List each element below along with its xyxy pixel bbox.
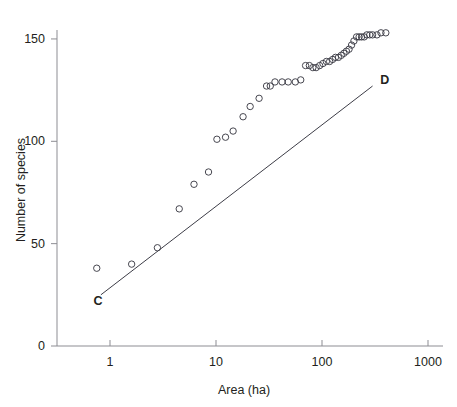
data-point bbox=[374, 32, 380, 38]
x-tick-label: 10 bbox=[209, 356, 223, 369]
data-point bbox=[191, 181, 197, 187]
reference-line-series bbox=[101, 86, 373, 295]
y-tick-label: 50 bbox=[31, 237, 45, 250]
data-point bbox=[247, 103, 253, 109]
data-point bbox=[279, 79, 285, 85]
x-axis-ticks bbox=[110, 340, 428, 346]
x-tick-label: 1 bbox=[107, 356, 114, 369]
data-point bbox=[154, 245, 160, 251]
data-point bbox=[214, 136, 220, 142]
data-point bbox=[298, 77, 304, 83]
plot-canvas bbox=[0, 0, 457, 407]
data-point bbox=[272, 79, 278, 85]
x-tick-label: 100 bbox=[312, 356, 333, 369]
y-axis-title: Number of species bbox=[14, 138, 28, 242]
x-tick-label: 1000 bbox=[414, 356, 442, 369]
data-point bbox=[302, 62, 308, 68]
data-point bbox=[230, 128, 236, 134]
line-label-d: D bbox=[380, 74, 389, 87]
y-tick-label: 150 bbox=[24, 33, 45, 46]
chart-figure: 0501001501101001000CD Area (ha) Number o… bbox=[0, 0, 457, 407]
data-point bbox=[383, 30, 389, 36]
line-label-c: C bbox=[94, 295, 103, 308]
x-axis-title: Area (ha) bbox=[218, 383, 270, 397]
y-tick-label: 0 bbox=[38, 340, 45, 353]
data-point bbox=[256, 95, 262, 101]
data-point bbox=[205, 169, 211, 175]
scatter-series bbox=[94, 30, 389, 272]
data-point bbox=[285, 79, 291, 85]
data-point bbox=[94, 265, 100, 271]
data-point bbox=[263, 83, 269, 89]
y-axis-ticks bbox=[51, 39, 57, 346]
data-point bbox=[128, 261, 134, 267]
reference-line bbox=[101, 86, 373, 295]
data-point bbox=[222, 134, 228, 140]
data-point bbox=[240, 114, 246, 120]
data-point bbox=[176, 206, 182, 212]
